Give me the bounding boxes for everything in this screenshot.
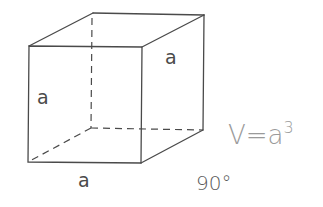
formula-exponent: 3 [284, 118, 294, 137]
formula-base: V=a [228, 120, 284, 150]
visible-edges [28, 13, 204, 163]
label-right-depth: a [165, 46, 177, 68]
hidden-back-bottom-edge [91, 128, 203, 130]
volume-formula: V=a3 [228, 118, 294, 150]
label-bottom-width: a [78, 169, 90, 191]
hidden-vertical-edge [91, 18, 92, 128]
top-left-edge [29, 13, 93, 46]
bottom-right-edge [141, 130, 203, 163]
back-right-vertical-edge [203, 15, 204, 130]
hidden-edges [28, 18, 203, 162]
top-back-edge [93, 13, 204, 15]
label-front-height: a [37, 86, 49, 108]
angle-label: 90° [196, 171, 231, 195]
top-right-edge [142, 15, 204, 47]
hidden-left-bottom-edge [28, 128, 91, 162]
cube-diagram: a a a V=a3 90° [0, 0, 323, 207]
